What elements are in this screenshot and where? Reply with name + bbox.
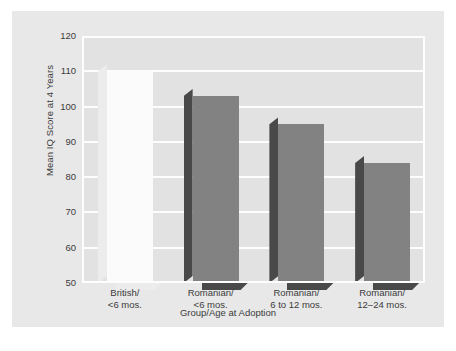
y-tick-label: 50 bbox=[50, 278, 76, 288]
y-tick-label: 70 bbox=[50, 207, 76, 217]
bar-slot bbox=[355, 36, 410, 283]
bar-slot bbox=[269, 36, 324, 283]
bar-slot bbox=[184, 36, 239, 283]
y-tick-label: 120 bbox=[50, 31, 76, 41]
x-tick-label-line: Romanian/ bbox=[254, 287, 340, 299]
y-tick-label: 80 bbox=[50, 172, 76, 182]
chart-figure: Mean IQ Score at 4 Years 120110100908070… bbox=[12, 11, 444, 327]
x-axis-title: Group/Age at Adoption bbox=[12, 307, 444, 318]
bar-side-3d bbox=[355, 156, 364, 283]
bar-side-3d bbox=[98, 64, 107, 283]
x-tick-label-line: Romanian/ bbox=[168, 287, 254, 299]
bar-slot bbox=[98, 36, 153, 283]
y-tick-label: 110 bbox=[50, 66, 76, 76]
y-tick-label: 90 bbox=[50, 137, 76, 147]
bar-face bbox=[193, 96, 239, 283]
bar-face bbox=[278, 124, 324, 283]
y-axis-tick-labels: 1201101009080706050 bbox=[46, 11, 76, 327]
y-tick-label: 100 bbox=[50, 102, 76, 112]
plot-area bbox=[82, 36, 425, 283]
x-tick-label-line: Romanian/ bbox=[339, 287, 425, 299]
bar[interactable] bbox=[193, 96, 239, 283]
bar-face bbox=[107, 71, 153, 283]
y-tick-label: 60 bbox=[50, 243, 76, 253]
x-tick-label-line: British/ bbox=[82, 287, 168, 299]
bar[interactable] bbox=[364, 163, 410, 283]
bar-side-3d bbox=[184, 89, 193, 283]
bar-side-3d bbox=[269, 117, 278, 283]
bar[interactable] bbox=[107, 71, 153, 283]
bar[interactable] bbox=[278, 124, 324, 283]
bar-face bbox=[364, 163, 410, 283]
